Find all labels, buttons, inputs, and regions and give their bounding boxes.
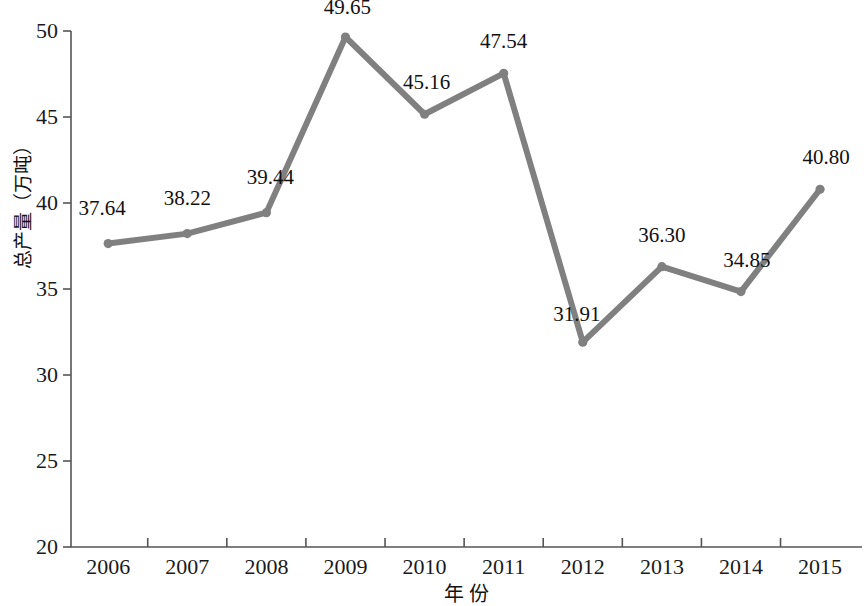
data-point-marker (736, 287, 745, 296)
data-point-label: 47.54 (480, 31, 527, 52)
x-axis-tick-label: 2008 (244, 556, 288, 578)
x-axis-tick-label: 2014 (719, 556, 763, 578)
x-axis-tick-label: 2012 (561, 556, 605, 578)
x-axis-ticks (148, 538, 781, 547)
y-axis-ticks (63, 31, 71, 547)
data-point-marker (420, 110, 429, 119)
data-point-marker (578, 338, 587, 347)
x-axis-tick-label: 2010 (403, 556, 447, 578)
x-axis-tick-label: 2013 (640, 556, 684, 578)
data-point-label: 38.22 (164, 187, 211, 208)
data-point-label: 34.85 (723, 249, 770, 270)
data-point-label: 37.64 (79, 197, 126, 218)
data-line (108, 37, 820, 342)
y-axis-tick-label: 25 (14, 450, 58, 472)
y-axis-tick-label: 35 (14, 278, 58, 300)
data-point-marker (341, 32, 350, 41)
x-axis-tick-label: 2006 (86, 556, 130, 578)
data-point-marker (815, 185, 824, 194)
data-point-marker (183, 229, 192, 238)
y-axis-tick-label: 50 (14, 20, 58, 42)
data-point-label: 36.30 (638, 224, 685, 245)
y-axis-tick-label: 30 (14, 364, 58, 386)
y-axis-tick-label: 40 (14, 192, 58, 214)
data-point-label: 45.16 (403, 72, 450, 93)
x-axis-tick-label: 2011 (482, 556, 525, 578)
data-point-label: 39.44 (247, 166, 294, 187)
x-axis-tick-label: 2009 (323, 556, 367, 578)
data-markers (104, 32, 825, 346)
data-point-marker (499, 69, 508, 78)
data-point-marker (657, 262, 666, 271)
x-axis-tick-label: 2015 (798, 556, 842, 578)
data-point-label: 49.65 (324, 0, 371, 18)
data-point-marker (104, 239, 113, 248)
data-point-label: 31.91 (553, 304, 600, 325)
x-axis-tick-label: 2007 (165, 556, 209, 578)
x-axis-title: 年 份 (71, 578, 862, 606)
data-point-label: 40.80 (802, 147, 849, 168)
y-axis-tick-label: 45 (14, 106, 58, 128)
chart-figure: 总产量（万吨） 年 份 20253035404550 2006200720082… (0, 0, 868, 606)
data-point-marker (262, 208, 271, 217)
y-axis-tick-label: 20 (14, 536, 58, 558)
